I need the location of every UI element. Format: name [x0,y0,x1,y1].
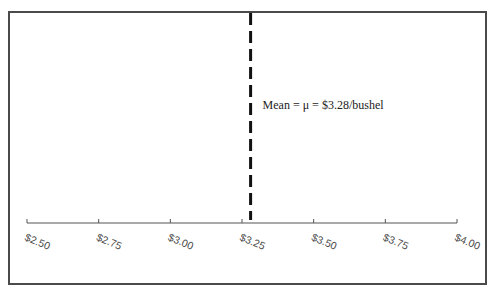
x-axis-tick-label: $3.00 [167,231,196,252]
x-axis-tick-label: $4.00 [453,231,482,252]
x-axis-tick-label: $3.25 [238,231,267,252]
x-axis-tick-label: $3.75 [382,231,411,252]
x-axis-tick-label: $2.50 [23,231,52,252]
chart-plot: $2.50$2.75$3.00$3.25$3.50$3.75$4.00 Mean… [0,0,494,292]
mean-annotation: Mean = μ = $3.28/bushel [263,98,385,112]
x-axis-tick-label: $2.75 [95,231,124,252]
x-axis-tick-labels: $2.50$2.75$3.00$3.25$3.50$3.75$4.00 [23,231,482,252]
x-axis-tick-label: $3.50 [310,231,339,252]
